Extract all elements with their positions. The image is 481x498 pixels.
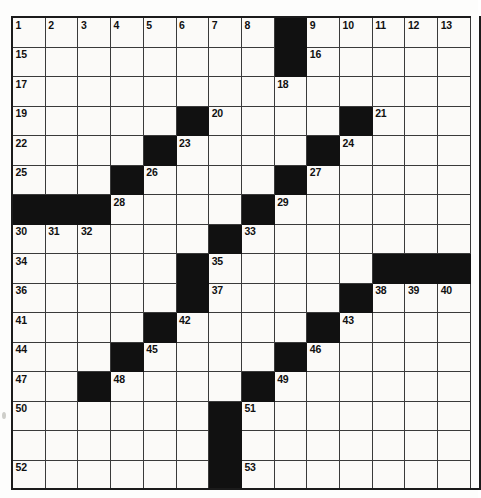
crossword-grid[interactable]: 1234567891011121315161718192021222324252…: [11, 16, 471, 490]
crossword-cell[interactable]: [46, 166, 79, 196]
crossword-cell[interactable]: [144, 48, 177, 78]
crossword-cell[interactable]: [307, 431, 340, 461]
crossword-cell[interactable]: [242, 77, 275, 107]
crossword-cell[interactable]: 21: [373, 107, 406, 137]
crossword-cell[interactable]: [405, 402, 438, 432]
crossword-cell[interactable]: [78, 136, 111, 166]
crossword-cell[interactable]: [177, 402, 210, 432]
crossword-cell[interactable]: [111, 402, 144, 432]
crossword-cell[interactable]: [405, 107, 438, 137]
crossword-cell[interactable]: [46, 431, 79, 461]
crossword-cell[interactable]: [340, 195, 373, 225]
crossword-cell[interactable]: 35: [209, 254, 242, 284]
crossword-cell[interactable]: 23: [177, 136, 210, 166]
crossword-cell[interactable]: [111, 48, 144, 78]
crossword-cell[interactable]: [373, 372, 406, 402]
crossword-cell[interactable]: [340, 431, 373, 461]
crossword-cell[interactable]: [438, 461, 471, 491]
crossword-cell[interactable]: [111, 431, 144, 461]
crossword-cell[interactable]: [78, 77, 111, 107]
crossword-cell[interactable]: [78, 107, 111, 137]
crossword-cell[interactable]: 1: [13, 18, 46, 48]
crossword-cell[interactable]: 17: [13, 77, 46, 107]
crossword-cell[interactable]: 45: [144, 343, 177, 373]
crossword-cell[interactable]: 7: [209, 18, 242, 48]
crossword-cell[interactable]: [144, 195, 177, 225]
crossword-cell[interactable]: 16: [307, 48, 340, 78]
crossword-cell[interactable]: [275, 254, 308, 284]
crossword-cell[interactable]: [242, 136, 275, 166]
crossword-cell[interactable]: [111, 284, 144, 314]
crossword-cell[interactable]: [78, 284, 111, 314]
crossword-cell[interactable]: 15: [13, 48, 46, 78]
crossword-cell[interactable]: [340, 225, 373, 255]
crossword-cell[interactable]: [405, 77, 438, 107]
crossword-cell[interactable]: 24: [340, 136, 373, 166]
crossword-cell[interactable]: 8: [242, 18, 275, 48]
crossword-cell[interactable]: [242, 48, 275, 78]
crossword-cell[interactable]: 30: [13, 225, 46, 255]
crossword-cell[interactable]: [373, 402, 406, 432]
crossword-cell[interactable]: [438, 136, 471, 166]
crossword-cell[interactable]: 34: [13, 254, 46, 284]
crossword-cell[interactable]: [340, 77, 373, 107]
crossword-cell[interactable]: [405, 372, 438, 402]
crossword-cell[interactable]: 3: [78, 18, 111, 48]
crossword-cell[interactable]: [111, 136, 144, 166]
crossword-cell[interactable]: [111, 461, 144, 491]
crossword-cell[interactable]: [307, 254, 340, 284]
crossword-cell[interactable]: [111, 107, 144, 137]
crossword-cell[interactable]: 2: [46, 18, 79, 48]
crossword-cell[interactable]: [144, 461, 177, 491]
crossword-cell[interactable]: [177, 431, 210, 461]
crossword-cell[interactable]: 13: [438, 18, 471, 48]
crossword-cell[interactable]: [405, 48, 438, 78]
crossword-cell[interactable]: [78, 254, 111, 284]
crossword-cell[interactable]: [438, 431, 471, 461]
crossword-cell[interactable]: [46, 254, 79, 284]
crossword-cell[interactable]: [111, 77, 144, 107]
crossword-cell[interactable]: 4: [111, 18, 144, 48]
crossword-cell[interactable]: [78, 431, 111, 461]
crossword-cell[interactable]: [340, 343, 373, 373]
crossword-cell[interactable]: [242, 284, 275, 314]
crossword-cell[interactable]: [144, 402, 177, 432]
crossword-cell[interactable]: [46, 461, 79, 491]
crossword-cell[interactable]: 11: [373, 18, 406, 48]
crossword-cell[interactable]: 46: [307, 343, 340, 373]
crossword-cell[interactable]: [144, 284, 177, 314]
crossword-cell[interactable]: [373, 343, 406, 373]
crossword-cell[interactable]: [275, 402, 308, 432]
crossword-cell[interactable]: [242, 166, 275, 196]
crossword-cell[interactable]: [307, 77, 340, 107]
crossword-cell[interactable]: [438, 166, 471, 196]
crossword-cell[interactable]: [209, 166, 242, 196]
crossword-cell[interactable]: 20: [209, 107, 242, 137]
crossword-cell[interactable]: [307, 461, 340, 491]
crossword-cell[interactable]: [46, 402, 79, 432]
crossword-cell[interactable]: [209, 48, 242, 78]
crossword-cell[interactable]: [242, 343, 275, 373]
crossword-cell[interactable]: [340, 402, 373, 432]
crossword-cell[interactable]: [13, 431, 46, 461]
crossword-cell[interactable]: [307, 372, 340, 402]
crossword-cell[interactable]: [275, 313, 308, 343]
crossword-cell[interactable]: [373, 136, 406, 166]
crossword-cell[interactable]: [340, 48, 373, 78]
crossword-cell[interactable]: 12: [405, 18, 438, 48]
crossword-cell[interactable]: 31: [46, 225, 79, 255]
crossword-cell[interactable]: [275, 461, 308, 491]
crossword-cell[interactable]: [111, 225, 144, 255]
crossword-cell[interactable]: 49: [275, 372, 308, 402]
crossword-cell[interactable]: [405, 225, 438, 255]
crossword-cell[interactable]: [46, 77, 79, 107]
crossword-cell[interactable]: [78, 343, 111, 373]
crossword-cell[interactable]: [144, 225, 177, 255]
crossword-cell[interactable]: [405, 343, 438, 373]
crossword-cell[interactable]: [177, 77, 210, 107]
crossword-cell[interactable]: [46, 136, 79, 166]
crossword-cell[interactable]: [373, 431, 406, 461]
crossword-cell[interactable]: 42: [177, 313, 210, 343]
crossword-cell[interactable]: [340, 166, 373, 196]
crossword-cell[interactable]: [438, 313, 471, 343]
